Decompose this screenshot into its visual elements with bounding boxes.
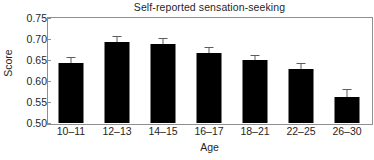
- y-tick-label: 0.60: [3, 76, 47, 86]
- bar-group: [186, 18, 232, 123]
- bar-group: [324, 18, 370, 123]
- error-bar-line: [71, 57, 72, 64]
- bar-group: [232, 18, 278, 123]
- y-tick-label: 0.50: [3, 118, 47, 128]
- error-bar-cap: [159, 38, 168, 39]
- bar: [243, 60, 268, 123]
- y-tick-label: 0.65: [3, 55, 47, 65]
- bar-group: [278, 18, 324, 123]
- x-tick-label: 14–15: [140, 125, 186, 138]
- x-tick-label: 26–30: [324, 125, 370, 138]
- bar: [59, 63, 84, 123]
- bar: [335, 97, 360, 123]
- bar-group: [94, 18, 140, 123]
- bar-group: [140, 18, 186, 123]
- error-bar-cap: [297, 63, 306, 64]
- error-bar-cap: [343, 89, 352, 90]
- bar-group: [48, 18, 94, 123]
- y-tick-mark: [47, 123, 51, 124]
- bar: [105, 42, 130, 123]
- error-bar-cap: [113, 36, 122, 37]
- y-tick-label: 0.70: [3, 34, 47, 44]
- error-bar-cap: [205, 47, 214, 48]
- bar: [289, 69, 314, 123]
- error-bar-cap: [251, 55, 260, 56]
- bar: [197, 53, 222, 123]
- error-bar-line: [347, 89, 348, 96]
- x-tick-label: 10–11: [48, 125, 94, 138]
- x-axis-title: Age: [47, 141, 372, 154]
- x-tick-label: 18–21: [232, 125, 278, 138]
- y-tick-label: 0.55: [3, 97, 47, 107]
- y-tick-label: 0.75: [3, 13, 47, 23]
- x-axis-ticks: 10–1112–1314–1516–1718–2122–2526–30: [48, 125, 370, 139]
- error-bar-cap: [67, 57, 76, 58]
- x-tick-label: 12–13: [94, 125, 140, 138]
- bar-series: [48, 18, 370, 123]
- bar: [151, 44, 176, 123]
- bar-chart-figure: Self-reported sensation-seeking Score 0.…: [0, 0, 374, 160]
- x-tick-label: 22–25: [278, 125, 324, 138]
- x-tick-label: 16–17: [186, 125, 232, 138]
